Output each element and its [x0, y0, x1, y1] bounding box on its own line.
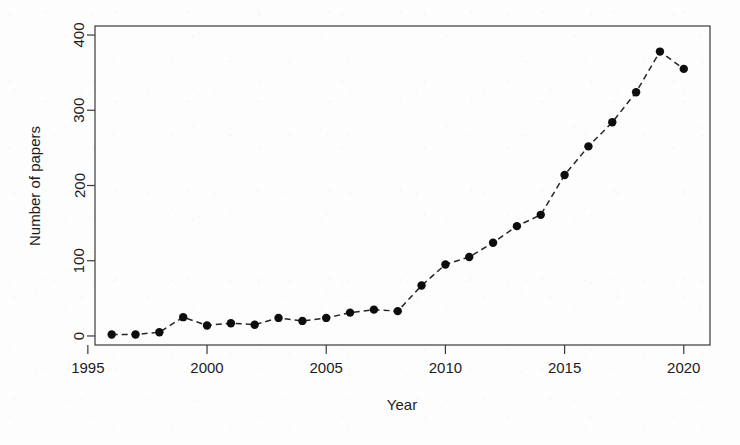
data-point	[251, 320, 259, 328]
data-point	[441, 260, 449, 268]
x-tick-label: 1995	[71, 359, 104, 376]
chart-figure: 0100200300400 199520002005201020152020 Y…	[0, 0, 740, 445]
y-tick-label: 300	[71, 98, 88, 123]
data-point	[298, 317, 306, 325]
data-point	[322, 314, 330, 322]
data-point	[560, 171, 568, 179]
x-tick-label: 2000	[190, 359, 223, 376]
x-tick-label: 2010	[429, 359, 462, 376]
data-point	[346, 308, 354, 316]
y-axis-ticks: 0100200300400	[71, 23, 96, 341]
series-points-number-of-papers	[107, 47, 687, 338]
data-point	[680, 65, 688, 73]
y-tick-label: 400	[71, 23, 88, 48]
data-point	[203, 321, 211, 329]
data-point	[465, 253, 473, 261]
data-point	[179, 313, 187, 321]
data-point	[155, 328, 163, 336]
data-point	[274, 314, 282, 322]
x-tick-label: 2020	[667, 359, 700, 376]
data-point	[489, 238, 497, 246]
y-axis-title: Number of papers	[26, 126, 43, 246]
data-point	[608, 118, 616, 126]
data-point	[537, 211, 545, 219]
data-point	[107, 330, 115, 338]
data-point	[131, 330, 139, 338]
plot-frame	[95, 26, 710, 345]
data-point	[513, 222, 521, 230]
data-point	[632, 88, 640, 96]
data-point	[370, 305, 378, 313]
data-point	[394, 307, 402, 315]
x-tick-label: 2015	[548, 359, 581, 376]
y-tick-label: 200	[71, 173, 88, 198]
series-line-number-of-papers	[112, 52, 684, 335]
data-point	[227, 319, 235, 327]
papers-per-year-line-chart: 0100200300400 199520002005201020152020 Y…	[0, 0, 740, 445]
data-point	[656, 47, 664, 55]
y-tick-label: 0	[71, 332, 88, 340]
data-point	[584, 142, 592, 150]
y-tick-label: 100	[71, 248, 88, 273]
x-tick-label: 2005	[310, 359, 343, 376]
x-axis-ticks: 199520002005201020152020	[71, 345, 700, 376]
data-point	[417, 281, 425, 289]
x-axis-title: Year	[387, 396, 417, 413]
